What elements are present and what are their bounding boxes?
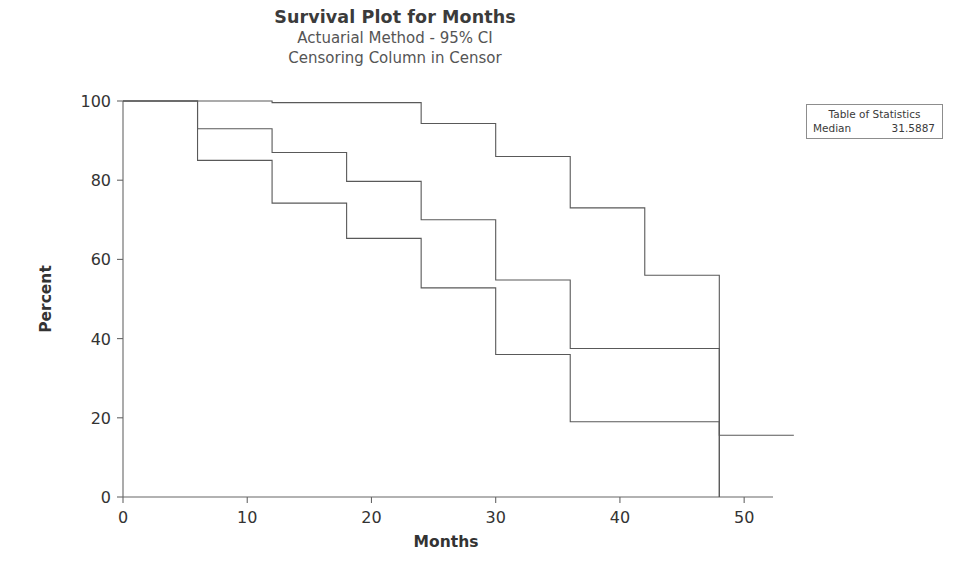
x-axis-tick-label: 0 bbox=[118, 508, 128, 527]
x-axis-tick-label: 10 bbox=[237, 508, 257, 527]
y-axis-tick-label: 100 bbox=[80, 92, 111, 111]
survival-step-curve bbox=[123, 101, 794, 435]
y-axis-tick-label: 0 bbox=[101, 488, 111, 507]
series-layer bbox=[123, 101, 794, 497]
stats-row-median: Median 31.5887 bbox=[807, 122, 942, 134]
tick-label-layer: 01020304050020406080100 bbox=[80, 92, 754, 527]
stats-value-median: 31.5887 bbox=[892, 122, 935, 134]
table-of-statistics: Table of Statistics Median 31.5887 bbox=[806, 104, 943, 139]
y-axis-tick-label: 20 bbox=[91, 409, 111, 428]
y-axis-tick-label: 60 bbox=[91, 250, 111, 269]
y-axis-tick-label: 80 bbox=[91, 171, 111, 190]
x-axis-tick-label: 40 bbox=[610, 508, 630, 527]
survival-plot-figure: Survival Plot for Months Actuarial Metho… bbox=[0, 0, 964, 565]
survival-step-curve bbox=[123, 101, 719, 497]
axis-layer bbox=[117, 101, 773, 503]
stats-table-title: Table of Statistics bbox=[807, 108, 942, 122]
x-axis-title: Months bbox=[123, 533, 769, 551]
x-axis-tick-label: 30 bbox=[486, 508, 506, 527]
plot-canvas: 01020304050020406080100 bbox=[0, 0, 964, 565]
x-axis-tick-label: 20 bbox=[361, 508, 381, 527]
x-axis-tick-label: 50 bbox=[734, 508, 754, 527]
y-axis-title: Percent bbox=[37, 239, 55, 359]
y-axis-tick-label: 40 bbox=[91, 330, 111, 349]
stats-label-median: Median bbox=[813, 122, 851, 134]
